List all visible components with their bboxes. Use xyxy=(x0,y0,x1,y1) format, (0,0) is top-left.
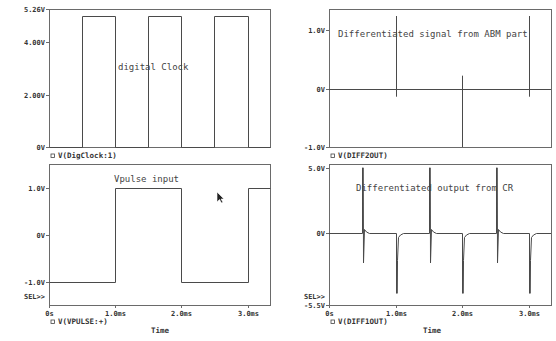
square-marker-icon xyxy=(331,154,335,158)
square-marker-icon xyxy=(51,320,55,324)
y-tick-label: -5.5V xyxy=(304,302,326,310)
sel-marker[interactable]: SEL>> xyxy=(24,293,45,301)
square-marker-icon xyxy=(51,154,55,158)
x-tick-label: 3.0ms xyxy=(519,310,540,318)
plot-annotation: Differentiated output from CR xyxy=(356,183,514,193)
x-axis-title: Time xyxy=(423,326,442,335)
x-tick-label: 2.0ms xyxy=(452,310,473,318)
plot-annotation: Differentiated signal from ABM part xyxy=(338,29,528,39)
sel-marker[interactable]: SEL>> xyxy=(304,293,325,301)
waveform-trace xyxy=(50,189,271,283)
x-tick-label: 1.0ms xyxy=(386,310,407,318)
y-tick-label: 5.0V xyxy=(308,165,326,173)
y-tick-label: -1.0V xyxy=(304,144,326,152)
y-tick-label: -1.0V xyxy=(24,279,46,287)
probe-window: 5.26V4.00V2.00V0Vdigital ClockV(DigClock… xyxy=(0,0,556,341)
y-tick-label: 5.26V xyxy=(24,6,46,14)
waveform-canvas: 5.26V4.00V2.00V0Vdigital ClockV(DigClock… xyxy=(0,0,556,341)
mouse-pointer-icon xyxy=(217,192,224,203)
y-tick-label: 1.0V xyxy=(28,185,46,193)
y-tick-label: 0V xyxy=(37,144,46,152)
square-marker-icon xyxy=(331,320,335,324)
plot-vpulse-input[interactable]: 1.0V0V-1.0V0s1.0ms2.0ms3.0msVpulse input… xyxy=(24,165,271,336)
waveform-trace xyxy=(50,17,271,148)
plot-frame xyxy=(50,165,271,306)
y-tick-label: 4.00V xyxy=(24,39,46,47)
x-tick-label: 3.0ms xyxy=(238,310,259,318)
y-tick-label: 1.0V xyxy=(308,27,326,35)
trace-legend[interactable]: V(DigClock:1) xyxy=(58,151,117,160)
y-tick-label: 0V xyxy=(37,232,46,240)
x-tick-label: 2.0ms xyxy=(171,310,192,318)
x-tick-label: 0s xyxy=(325,310,333,318)
plot-annotation: digital Clock xyxy=(118,62,189,72)
trace-legend[interactable]: V(VPULSE:+) xyxy=(58,317,108,326)
x-tick-label: 0s xyxy=(45,310,53,318)
trace-legend[interactable]: V(DIFF1OUT) xyxy=(338,317,388,326)
y-tick-label: 0V xyxy=(317,86,326,94)
plot-digital-clock[interactable]: 5.26V4.00V2.00V0Vdigital ClockV(DigClock… xyxy=(24,6,271,160)
y-tick-label: 0V xyxy=(317,230,326,238)
x-tick-label: 1.0ms xyxy=(105,310,126,318)
plot-annotation: Vpulse input xyxy=(114,174,179,184)
plot-diff2out[interactable]: 1.0V0V-1.0VDifferentiated signal from AB… xyxy=(304,10,552,161)
trace-legend[interactable]: V(DIFF2OUT) xyxy=(338,151,388,160)
x-axis-title: Time xyxy=(151,326,170,335)
plot-diff1out[interactable]: 5.0V0V-5.5V0s1.0ms2.0ms3.0msDifferentiat… xyxy=(304,165,552,336)
y-tick-label: 2.00V xyxy=(24,92,46,100)
